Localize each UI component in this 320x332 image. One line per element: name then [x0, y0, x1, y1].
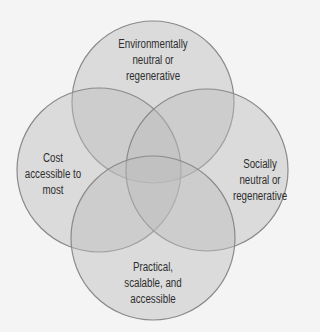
label-line: Practical, [118, 259, 188, 275]
label-line: neutral or [229, 172, 291, 188]
label-line: most [22, 182, 84, 198]
label-line: neutral or [114, 52, 192, 68]
label-line: scalable, and [118, 275, 188, 291]
label-social: Socially neutral or regenerative [229, 156, 291, 204]
label-line: Cost [22, 150, 84, 166]
label-line: regenerative [114, 68, 192, 84]
label-line: Environmentally [114, 36, 192, 52]
label-line: accessible [118, 291, 188, 307]
label-cost: Cost accessible to most [22, 150, 84, 198]
label-practical: Practical, scalable, and accessible [118, 259, 188, 307]
label-line: Socially [229, 156, 291, 172]
label-line: regenerative [229, 188, 291, 204]
label-line: accessible to [22, 166, 84, 182]
label-environmental: Environmentally neutral or regenerative [114, 36, 192, 84]
